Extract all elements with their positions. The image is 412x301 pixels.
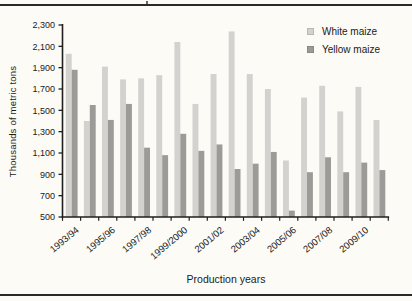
x-tick-label: 2005/06 <box>265 224 298 255</box>
bar-white-maize-2009-10 <box>355 87 361 217</box>
x-tick-label: 2009/10 <box>337 224 370 255</box>
bar-yellow-maize-2009-10 <box>361 163 367 217</box>
bar-yellow-maize-2008-09 <box>343 172 349 217</box>
legend-label-yellow-maize: Yellow maize <box>322 44 380 55</box>
bar-yellow-maize-1993-94 <box>72 70 78 217</box>
bar-yellow-maize-2001-02 <box>217 144 223 217</box>
bar-yellow-maize-2003-04 <box>253 164 259 217</box>
bar-white-maize-2005-06 <box>283 160 289 217</box>
y-tick-label: 1,300 <box>32 127 55 137</box>
bar-yellow-maize-1998-99 <box>162 155 168 217</box>
y-tick-label: 2,300 <box>32 20 55 30</box>
bar-yellow-maize-1999-2000 <box>180 134 186 217</box>
bar-white-maize-1995-96 <box>102 67 108 217</box>
figure: { "figure": { "background": "#fcfbf6", "… <box>0 0 412 301</box>
bar-yellow-maize-1994-95 <box>90 105 96 217</box>
bottom-rule <box>0 294 412 296</box>
x-axis-title: Production years <box>120 273 332 285</box>
bar-yellow-maize-2000-01 <box>198 151 204 217</box>
x-tick-label: 1995/96 <box>84 224 117 255</box>
x-tick-label: 1999/2000 <box>148 224 189 261</box>
y-tick-label: 2,100 <box>32 42 55 52</box>
y-tick-label: 700 <box>40 191 55 201</box>
bar-white-maize-2002-03 <box>229 31 235 217</box>
bar-yellow-maize-2006-07 <box>307 172 313 217</box>
x-tick-label: 1993/94 <box>47 224 80 255</box>
bar-white-maize-2003-04 <box>247 74 253 217</box>
y-tick-label: 1,700 <box>32 84 55 94</box>
bar-white-maize-1997-98 <box>138 78 144 217</box>
bar-yellow-maize-1996-97 <box>126 104 132 217</box>
y-tick-label: 900 <box>40 170 55 180</box>
bar-yellow-maize-2010-11 <box>379 170 385 217</box>
bar-white-maize-1996-97 <box>120 79 126 217</box>
legend-swatch-yellow-maize <box>307 46 314 53</box>
bar-white-maize-1999-2000 <box>174 42 180 217</box>
bar-white-maize-1994-95 <box>84 121 90 217</box>
x-tick-label: 1997/98 <box>120 224 153 255</box>
legend-item-white-maize: White maize <box>307 22 380 40</box>
legend-swatch-white-maize <box>307 28 314 35</box>
y-tick-label: 1,900 <box>32 63 55 73</box>
bar-yellow-maize-1995-96 <box>108 120 114 217</box>
x-tick-label: 2001/02 <box>192 224 225 255</box>
bar-white-maize-2007-08 <box>319 86 325 217</box>
bar-white-maize-2008-09 <box>337 111 343 217</box>
bar-white-maize-2000-01 <box>193 104 199 217</box>
legend-label-white-maize: White maize <box>322 26 377 37</box>
x-tick-label: 2007/08 <box>301 224 334 255</box>
bar-white-maize-2004-05 <box>265 89 271 217</box>
legend-item-yellow-maize: Yellow maize <box>307 40 380 58</box>
legend: White maize Yellow maize <box>307 22 380 58</box>
y-tick-label: 1,100 <box>32 148 55 158</box>
y-axis-title: Thousands of metric tons <box>7 52 20 192</box>
bar-white-maize-1993-94 <box>66 54 72 217</box>
x-tick-label: 2003/04 <box>228 224 261 255</box>
bar-yellow-maize-2002-03 <box>235 169 241 217</box>
bar-white-maize-2006-07 <box>301 98 307 217</box>
bar-yellow-maize-2005-06 <box>289 211 295 217</box>
bar-yellow-maize-2004-05 <box>271 152 277 217</box>
bar-white-maize-1998-99 <box>156 75 162 217</box>
y-tick-label: 1,500 <box>32 106 55 116</box>
bar-yellow-maize-1997-98 <box>144 148 150 217</box>
bar-white-maize-2010-11 <box>374 120 380 217</box>
bar-yellow-maize-2007-08 <box>325 157 331 217</box>
y-tick-label: 500 <box>40 212 55 222</box>
bar-white-maize-2001-02 <box>211 74 217 217</box>
